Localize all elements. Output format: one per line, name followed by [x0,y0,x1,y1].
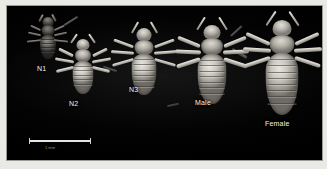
specimen-label-female: Female [265,120,290,127]
scale-bar-caption: 1 mm [45,146,55,150]
figure-photomicrograph: N1 [0,0,327,169]
scale-bar [29,140,91,142]
specimen-n3 [111,20,177,102]
specimen-female [243,10,321,126]
specimen-label-n1: N1 [37,65,46,72]
specimen-n2 [55,32,111,100]
specimen-label-male: Male [195,99,211,106]
specimen-label-n3: N3 [129,86,138,93]
specimen-label-n2: N2 [69,100,78,107]
photo-black-field: N1 [7,6,322,160]
specimen-male [175,16,249,112]
